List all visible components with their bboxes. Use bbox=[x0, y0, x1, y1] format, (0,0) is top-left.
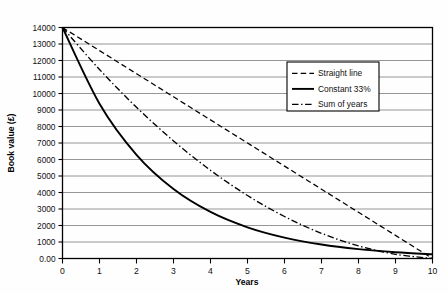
y-axis-title: Book value (£) bbox=[6, 113, 16, 172]
x-tick-label: 9 bbox=[393, 266, 398, 276]
y-tick-label: 2000 bbox=[37, 221, 56, 231]
y-tick-label: 10000 bbox=[32, 89, 55, 99]
y-tick-label: 4000 bbox=[37, 188, 56, 198]
x-axis-tick-labels: 012345678910 bbox=[60, 266, 437, 276]
y-tick-label: 9000 bbox=[37, 105, 56, 115]
chart-canvas: 0.00100020003000400050006000700080009000… bbox=[0, 0, 448, 294]
x-tick-label: 3 bbox=[171, 266, 176, 276]
y-tick-label: 0.00 bbox=[39, 254, 56, 264]
x-tick-label: 7 bbox=[319, 266, 324, 276]
x-tick-label: 2 bbox=[134, 266, 139, 276]
x-tick-label: 0 bbox=[60, 266, 65, 276]
y-tick-label: 6000 bbox=[37, 155, 56, 165]
legend-label: Constant 33% bbox=[318, 84, 371, 94]
chart-legend: Straight lineConstant 33%Sum of years bbox=[287, 62, 379, 111]
y-tick-label: 7000 bbox=[37, 138, 56, 148]
legend-label: Straight line bbox=[318, 68, 363, 78]
x-tick-label: 1 bbox=[97, 266, 102, 276]
y-tick-label: 8000 bbox=[37, 122, 56, 132]
x-axis-title: Years bbox=[236, 277, 259, 287]
y-tick-label: 14000 bbox=[32, 23, 55, 33]
y-tick-label: 5000 bbox=[37, 171, 56, 181]
y-tick-label: 1000 bbox=[37, 237, 56, 247]
y-axis-tick-labels: 0.00100020003000400050006000700080009000… bbox=[32, 23, 55, 264]
x-tick-label: 6 bbox=[282, 266, 287, 276]
x-tick-label: 4 bbox=[208, 266, 213, 276]
depreciation-chart-figure: 0.00100020003000400050006000700080009000… bbox=[0, 0, 448, 294]
x-tick-label: 10 bbox=[428, 266, 438, 276]
x-axis-ticks-group bbox=[63, 259, 433, 264]
x-tick-label: 8 bbox=[356, 266, 361, 276]
legend-label: Sum of years bbox=[318, 99, 367, 109]
y-tick-label: 13000 bbox=[32, 39, 55, 49]
y-tick-label: 12000 bbox=[32, 56, 55, 66]
y-tick-label: 3000 bbox=[37, 204, 56, 214]
x-tick-label: 5 bbox=[245, 266, 250, 276]
y-tick-label: 11000 bbox=[33, 72, 56, 82]
